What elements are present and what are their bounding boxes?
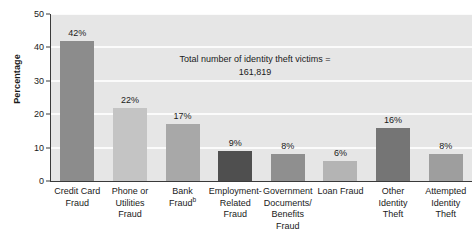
bars-layer xyxy=(51,14,472,181)
x-axis-labels: Credit CardFraudPhone orUtilitiesFraudBa… xyxy=(51,186,472,248)
bar[interactable] xyxy=(218,151,252,181)
total-victims-annotation: Total number of identity theft victims =… xyxy=(145,53,365,79)
x-axis-category-label: AttemptedIdentityTheft xyxy=(412,186,476,221)
bar[interactable] xyxy=(166,124,200,181)
x-axis-label-line: Fraud xyxy=(255,221,322,233)
x-axis-line xyxy=(50,181,472,182)
annotation-line-1: Total number of identity theft victims = xyxy=(145,53,365,66)
bar[interactable] xyxy=(113,108,147,181)
y-axis-tick-label: 40 xyxy=(34,43,44,52)
x-axis-label-line: Theft xyxy=(412,209,476,221)
bar-value-label: 17% xyxy=(174,112,192,121)
bar-chart: Percentage 50403020100 42%22%17%9%8%6%16… xyxy=(0,0,476,250)
bar[interactable] xyxy=(376,128,410,181)
y-axis-tick-label: 10 xyxy=(34,143,44,152)
bar[interactable] xyxy=(429,154,463,181)
footnote-marker: b xyxy=(193,196,197,203)
bar[interactable] xyxy=(323,161,357,181)
bar[interactable] xyxy=(271,154,305,181)
y-axis-tick-label: 50 xyxy=(34,10,44,19)
y-axis-tick-label: 30 xyxy=(34,76,44,85)
y-axis-tick-label: 20 xyxy=(34,110,44,119)
x-axis-label-line: Fraud xyxy=(97,209,164,221)
y-axis: 50403020100 xyxy=(22,14,50,180)
y-axis-title: Percentage xyxy=(12,34,22,124)
x-axis-label-line: Documents/ xyxy=(255,198,322,210)
x-axis-label-line: Identity xyxy=(412,198,476,210)
plot-area xyxy=(51,14,472,181)
x-axis-label-line: Benefits xyxy=(255,209,322,221)
y-axis-tick-label: 0 xyxy=(39,177,44,186)
bar-value-label: 6% xyxy=(334,149,347,158)
x-axis-label-line: Attempted xyxy=(412,186,476,198)
bar-value-label: 22% xyxy=(121,96,139,105)
bar[interactable] xyxy=(60,41,94,181)
annotation-line-2: 161,819 xyxy=(145,66,365,79)
bar-value-label: 42% xyxy=(68,29,86,38)
bar-value-label: 9% xyxy=(229,139,242,148)
bar-value-label: 8% xyxy=(439,142,452,151)
bar-value-label: 8% xyxy=(281,142,294,151)
bar-value-label: 16% xyxy=(384,116,402,125)
